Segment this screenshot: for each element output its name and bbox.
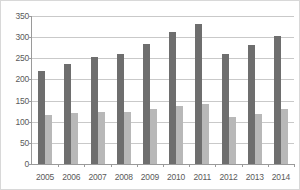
bar: [98, 112, 105, 164]
y-tick-label: 50: [1, 138, 29, 148]
bar-group: [169, 16, 183, 164]
bar: [229, 117, 236, 164]
x-tick-mark: [111, 164, 112, 167]
y-tick-label: 150: [1, 96, 29, 106]
bar: [248, 45, 255, 164]
bar-group: [143, 16, 157, 164]
bar-group: [117, 16, 131, 164]
bar: [91, 57, 98, 164]
bar-group: [195, 16, 209, 164]
bar: [281, 109, 288, 164]
bar: [71, 113, 78, 164]
bar: [222, 54, 229, 164]
bar: [176, 106, 183, 164]
y-tick-label: 350: [1, 11, 29, 21]
y-tick-label: 100: [1, 117, 29, 127]
bar: [150, 109, 157, 164]
x-tick-mark: [215, 164, 216, 167]
bar: [124, 112, 131, 164]
y-tick-label: 300: [1, 32, 29, 42]
x-tick-mark: [163, 164, 164, 167]
x-tick-mark: [268, 164, 269, 167]
bar: [195, 24, 202, 164]
bar-group: [91, 16, 105, 164]
bar-group: [222, 16, 236, 164]
bar: [38, 71, 45, 164]
x-tick-mark: [84, 164, 85, 167]
bar-group: [38, 16, 52, 164]
x-tick-mark: [58, 164, 59, 167]
bar: [169, 32, 176, 164]
bar: [117, 54, 124, 164]
x-tick-label: 2014: [264, 172, 298, 182]
bar: [45, 115, 52, 164]
y-tick-label: 250: [1, 53, 29, 63]
x-tick-mark: [242, 164, 243, 167]
x-tick-mark: [294, 164, 295, 167]
bar: [255, 114, 262, 164]
x-tick-mark: [189, 164, 190, 167]
bar-group: [274, 16, 288, 164]
bar-chart: 050100150200250300350 200520062007200820…: [0, 0, 300, 190]
y-tick-label: 0: [1, 159, 29, 169]
y-tick-label: 200: [1, 74, 29, 84]
bar: [143, 44, 150, 165]
x-tick-mark: [137, 164, 138, 167]
plot-area: [32, 16, 294, 164]
bar: [64, 64, 71, 164]
bar-group: [64, 16, 78, 164]
bar-group: [248, 16, 262, 164]
bar: [202, 104, 209, 164]
bar: [274, 36, 281, 164]
